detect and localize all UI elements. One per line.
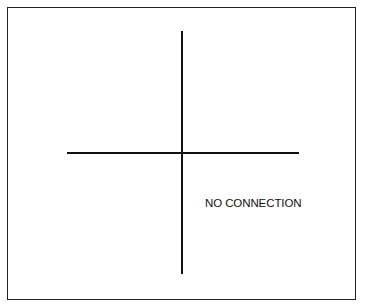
crossing-wires	[0, 0, 365, 308]
no-connection-label: NO CONNECTION	[205, 197, 301, 209]
